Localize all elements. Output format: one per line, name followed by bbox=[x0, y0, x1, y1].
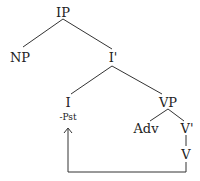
edge-vp-adv bbox=[150, 109, 168, 121]
edge-ip-np bbox=[23, 19, 63, 47]
movement-arrow-line bbox=[68, 129, 186, 172]
edge-ibar-i bbox=[71, 66, 112, 94]
node-adv: Adv bbox=[132, 121, 159, 136]
node-vp: VP bbox=[158, 95, 177, 110]
edge-vp-vbar bbox=[168, 109, 184, 121]
node-i: I bbox=[65, 95, 70, 110]
node-np: NP bbox=[10, 50, 30, 65]
feature-past: -Pst bbox=[59, 112, 76, 122]
node-ibar: I' bbox=[109, 50, 118, 65]
node-vbar: V' bbox=[180, 121, 194, 136]
edge-ip-ibar bbox=[63, 19, 112, 49]
node-ip: IP bbox=[56, 5, 70, 20]
syntax-tree: IP NP I' I -Pst VP Adv V' V bbox=[0, 0, 200, 181]
edge-ibar-vp bbox=[112, 66, 162, 94]
node-v: V bbox=[180, 147, 191, 162]
